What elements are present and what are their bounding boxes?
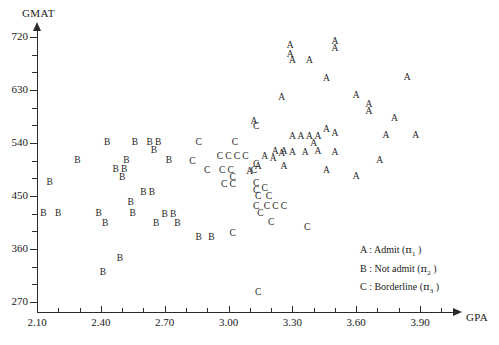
data-point-a: A bbox=[288, 148, 296, 158]
data-point-c: C bbox=[231, 138, 239, 148]
data-point-a: A bbox=[261, 152, 269, 162]
data-point-b: B bbox=[152, 219, 160, 229]
data-point-a: A bbox=[331, 148, 339, 158]
data-point-c: C bbox=[203, 166, 211, 176]
data-point-b: B bbox=[127, 198, 135, 208]
data-point-c: C bbox=[303, 223, 311, 233]
legend-key: C : bbox=[360, 281, 374, 292]
y-tick-major bbox=[30, 37, 37, 38]
data-point-c: C bbox=[271, 202, 279, 212]
data-point-b: B bbox=[103, 138, 111, 148]
x-tick-label: 3.00 bbox=[209, 316, 249, 328]
legend-pi-symbol: π bbox=[405, 244, 412, 255]
data-point-c: C bbox=[267, 218, 275, 228]
y-tick-minor bbox=[32, 72, 37, 73]
data-point-b: B bbox=[116, 254, 124, 264]
y-tick-minor bbox=[32, 178, 37, 179]
y-tick-minor bbox=[32, 267, 37, 268]
legend-key: A : bbox=[360, 244, 374, 255]
data-point-b: B bbox=[131, 138, 139, 148]
data-point-a: A bbox=[322, 74, 330, 84]
data-point-c: C bbox=[188, 157, 196, 167]
y-tick-minor bbox=[32, 214, 37, 215]
y-tick-minor bbox=[32, 284, 37, 285]
data-point-a: A bbox=[280, 162, 288, 172]
x-tick-major bbox=[165, 306, 166, 313]
data-point-c: C bbox=[252, 122, 260, 132]
y-tick-minor bbox=[32, 231, 37, 232]
data-point-c: C bbox=[218, 166, 226, 176]
data-point-b: B bbox=[173, 219, 181, 229]
data-point-a: A bbox=[352, 172, 360, 182]
x-tick-major bbox=[420, 306, 421, 313]
y-tick-minor bbox=[32, 161, 37, 162]
x-tick-major bbox=[356, 306, 357, 313]
scatter-plot-canvas: GMAT GPA 270360450540630720 2.102.402.70… bbox=[0, 0, 499, 345]
x-tick-major bbox=[229, 306, 230, 313]
x-axis-arrow-icon bbox=[453, 308, 462, 316]
x-tick-major bbox=[292, 306, 293, 313]
data-point-c: C bbox=[225, 152, 233, 162]
data-point-a: A bbox=[403, 73, 411, 83]
data-point-c: C bbox=[216, 152, 224, 162]
legend-item-b: B : Not admit (π2 ) bbox=[360, 262, 439, 281]
legend-paren-close: ) bbox=[431, 263, 437, 274]
x-tick-minor bbox=[207, 308, 208, 313]
data-point-c: C bbox=[195, 138, 203, 148]
data-point-a: A bbox=[322, 166, 330, 176]
data-point-b: B bbox=[46, 178, 54, 188]
data-point-a: A bbox=[305, 56, 313, 66]
data-point-c: C bbox=[254, 288, 262, 298]
data-point-a: A bbox=[390, 114, 398, 124]
x-tick-minor bbox=[335, 308, 336, 313]
y-axis-title: GMAT bbox=[22, 7, 55, 19]
data-point-b: B bbox=[95, 209, 103, 219]
legend-label: Not admit ( bbox=[374, 263, 420, 274]
data-point-c: C bbox=[229, 180, 237, 190]
data-point-b: B bbox=[129, 209, 137, 219]
y-tick-label: 720 bbox=[0, 30, 28, 42]
legend-paren-close: ) bbox=[415, 244, 421, 255]
x-tick-minor bbox=[58, 308, 59, 313]
legend: A : Admit (π1 )B : Not admit (π2 )C : Bo… bbox=[360, 243, 439, 299]
x-tick-minor bbox=[143, 308, 144, 313]
x-tick-minor bbox=[377, 308, 378, 313]
y-tick-major bbox=[30, 249, 37, 250]
data-point-b: B bbox=[195, 233, 203, 243]
x-tick-minor bbox=[80, 308, 81, 313]
x-tick-label: 2.10 bbox=[17, 316, 57, 328]
legend-pi-symbol: π bbox=[423, 281, 430, 292]
data-point-a: A bbox=[278, 149, 286, 159]
x-tick-label: 3.60 bbox=[336, 316, 376, 328]
y-axis-arrow-icon bbox=[33, 22, 41, 31]
data-point-c: C bbox=[252, 160, 260, 170]
data-point-a: A bbox=[301, 148, 309, 158]
x-tick-minor bbox=[441, 308, 442, 313]
x-tick-minor bbox=[122, 308, 123, 313]
x-tick-major bbox=[37, 306, 38, 313]
legend-item-c: C : Borderline (π3 ) bbox=[360, 280, 439, 299]
x-tick-label: 3.30 bbox=[272, 316, 312, 328]
data-point-b: B bbox=[150, 146, 158, 156]
y-axis-line bbox=[37, 30, 38, 312]
legend-paren-close: ) bbox=[433, 281, 439, 292]
data-point-b: B bbox=[139, 188, 147, 198]
y-tick-label: 630 bbox=[0, 83, 28, 95]
data-point-a: A bbox=[352, 91, 360, 101]
data-point-c: C bbox=[242, 152, 250, 162]
data-point-a: A bbox=[412, 131, 420, 141]
x-tick-label: 3.90 bbox=[400, 316, 440, 328]
x-tick-major bbox=[101, 306, 102, 313]
data-point-c: C bbox=[256, 209, 264, 219]
x-axis-title: GPA bbox=[466, 311, 488, 323]
data-point-a: A bbox=[286, 50, 294, 60]
y-tick-major bbox=[30, 143, 37, 144]
data-point-b: B bbox=[101, 219, 109, 229]
y-tick-label: 450 bbox=[0, 189, 28, 201]
x-tick-minor bbox=[399, 308, 400, 313]
x-tick-minor bbox=[250, 308, 251, 313]
data-point-c: C bbox=[229, 229, 237, 239]
data-point-b: B bbox=[165, 156, 173, 166]
y-tick-label: 360 bbox=[0, 242, 28, 254]
y-tick-minor bbox=[32, 125, 37, 126]
